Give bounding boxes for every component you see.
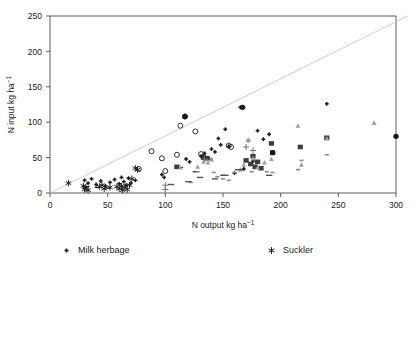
y-axis-title: N input kg ha−1: [5, 75, 16, 133]
y-tick-label: 0: [37, 188, 42, 198]
x-tick-label: 100: [158, 200, 172, 210]
chart-legend: Milk herbageSucklerSuckler-fattened off-…: [0, 240, 417, 342]
asterisk-icon: [265, 244, 278, 257]
y-tick-label: 200: [28, 47, 42, 57]
scatter-plot-figure: 050100150200250300050100150200250N outpu…: [0, 0, 417, 342]
x-axis-title: N output kg ha−1: [192, 219, 255, 230]
legend-marker-glyph: [65, 248, 69, 252]
x-tick-label: 0: [48, 200, 53, 210]
legend-item-suckler[interactable]: Suckler: [205, 240, 417, 260]
x-tick-label: 250: [331, 200, 345, 210]
data-point: [269, 141, 274, 146]
data-point: [243, 158, 248, 163]
plot-frame: [50, 16, 396, 193]
x-tick-label: 50: [103, 200, 113, 210]
data-point: [248, 162, 253, 167]
x-tick-label: 150: [216, 200, 230, 210]
data-point: [255, 160, 260, 165]
y-tick-label: 150: [28, 82, 42, 92]
y-tick-label: 100: [28, 117, 42, 127]
x-tick-label: 200: [274, 200, 288, 210]
y-tick-label: 50: [33, 153, 43, 163]
data-point: [298, 145, 303, 150]
small-plus-icon: [60, 244, 73, 257]
x-tick-label: 300: [389, 200, 403, 210]
legend-item-milk-herbage[interactable]: Milk herbage: [0, 240, 205, 260]
data-point: [393, 134, 398, 139]
data-point: [270, 150, 275, 155]
legend-item-label: Milk herbage: [78, 245, 130, 256]
data-point: [240, 105, 245, 110]
data-point: [182, 114, 187, 119]
legend-marker-glyph: [269, 247, 275, 254]
legend-item-label: Suckler: [283, 245, 313, 256]
y-tick-label: 250: [28, 11, 42, 21]
